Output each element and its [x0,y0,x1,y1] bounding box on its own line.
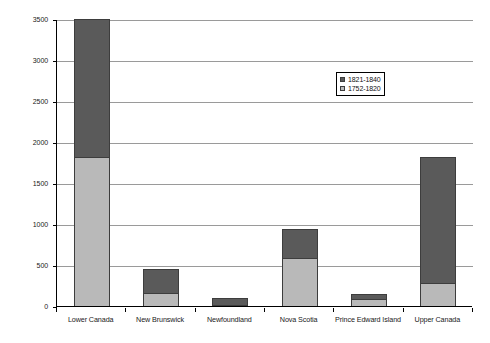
y-axis-tick-label: 2000 [14,139,48,146]
y-axis-tick-label: 0 [14,303,48,310]
legend-label: 1821-1840 [348,75,381,84]
bar-chart: Number of titles 35003000250020001500100… [0,0,490,343]
bar-segment-1821-1840 [143,269,179,293]
legend-swatch-icon [340,77,345,82]
stacked-bar [74,19,110,306]
bar-segment-1752-1820 [143,293,179,306]
x-axis-tick [125,308,126,312]
stacked-bar [212,298,248,306]
plot-area [56,20,472,307]
chart-legend: 1821-18401752-1820 [336,72,385,96]
x-axis-tick [333,308,334,312]
stacked-bar [351,294,387,306]
y-axis-tick-label: 2500 [14,98,48,105]
stacked-bar [282,229,318,306]
x-axis-tick [56,308,57,312]
stacked-bar [143,269,179,306]
x-axis-tick-labels: Lower CanadaNew BrunswickNewfoundlandNov… [56,308,472,338]
bar-segment-1821-1840 [74,19,110,157]
x-axis-tick [264,308,265,312]
legend-swatch-icon [340,86,345,91]
y-axis-tick-label: 3000 [14,57,48,64]
legend-item: 1752-1820 [340,84,381,93]
stacked-bar [420,157,456,306]
legend-label: 1752-1820 [348,84,381,93]
bar-group [126,19,195,306]
bar-segment-1752-1820 [212,305,248,306]
bar-group [57,19,126,306]
bar-segment-1821-1840 [282,229,318,259]
bar-segment-1752-1820 [74,157,110,306]
bar-segment-1752-1820 [420,283,456,306]
x-axis-tick [403,308,404,312]
x-axis-tick-label: Upper Canada [394,315,480,324]
bar-segment-1752-1820 [282,258,318,306]
bar-group [196,19,265,306]
bar-group [334,19,403,306]
x-axis-tick [472,308,473,312]
y-axis-tick-label: 500 [14,262,48,269]
bar-segment-1752-1820 [351,299,387,306]
x-axis-tick [195,308,196,312]
bar-segment-1821-1840 [420,157,456,284]
bar-group [404,19,473,306]
bar-group [265,19,334,306]
y-axis-tick-label: 1500 [14,180,48,187]
legend-item: 1821-1840 [340,75,381,84]
y-axis-tick-label: 1000 [14,221,48,228]
y-axis-tick-label: 3500 [14,16,48,23]
